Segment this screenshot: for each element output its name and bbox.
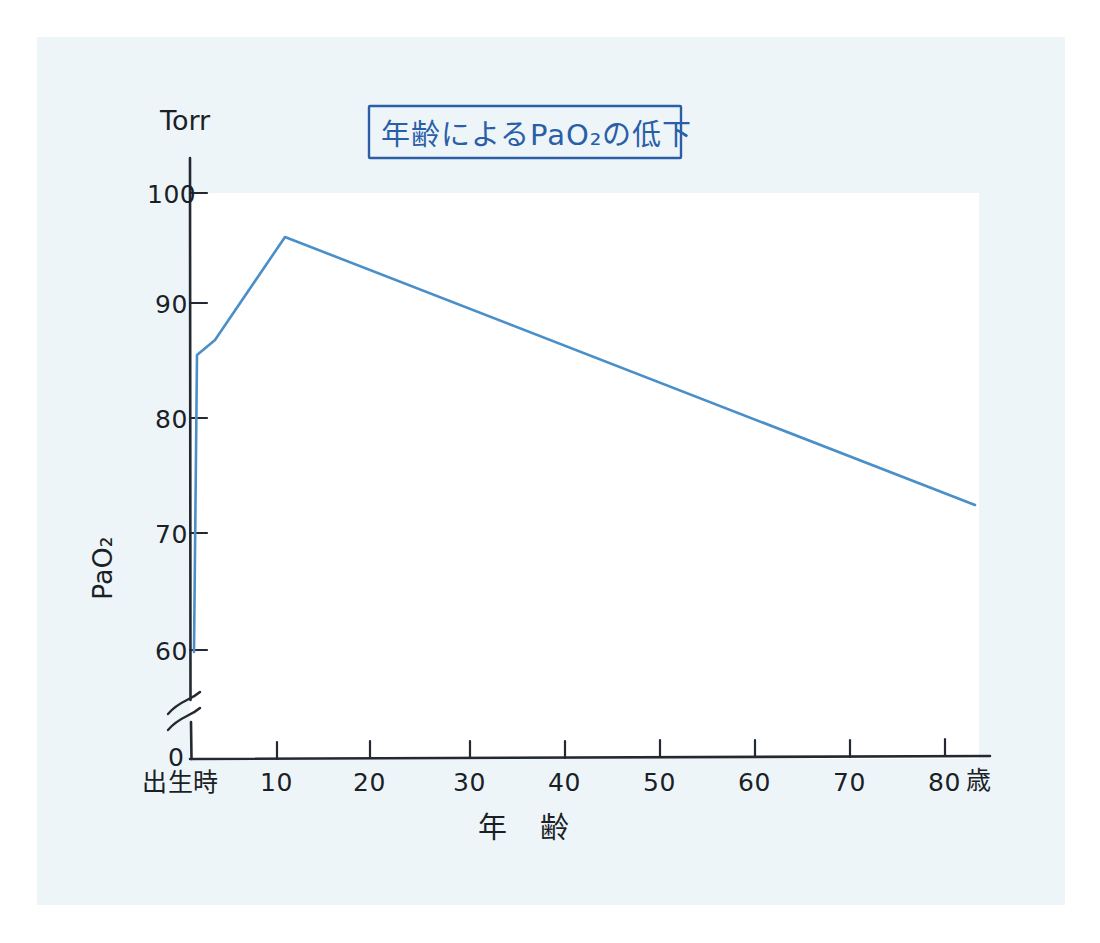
y-axis-ticks bbox=[190, 193, 207, 650]
y-axis-break-symbol bbox=[168, 692, 200, 730]
x-tick-label-60: 60 bbox=[738, 768, 771, 797]
y-tick-label-70: 70 bbox=[155, 520, 188, 549]
pao2-data-line bbox=[194, 237, 975, 652]
y-axis-line-upper bbox=[190, 158, 191, 700]
page-root: 年齢によるPaO₂の低下 Torr 100 90 80 70 bbox=[0, 0, 1100, 943]
x-axis-tick-labels: 出生時 10 20 30 40 50 60 70 80 歳 bbox=[142, 766, 992, 797]
y-tick-label-90: 90 bbox=[155, 290, 188, 319]
x-axis-line bbox=[190, 756, 990, 759]
x-tick-label-10: 10 bbox=[260, 768, 293, 797]
x-tick-label-birth: 出生時 bbox=[142, 768, 219, 797]
x-tick-label-30: 30 bbox=[453, 768, 486, 797]
x-tick-label-50: 50 bbox=[643, 768, 676, 797]
y-tick-label-80: 80 bbox=[155, 405, 188, 434]
y-axis-title: PaO₂ bbox=[87, 536, 118, 600]
chart-figure: 年齢によるPaO₂の低下 Torr 100 90 80 70 bbox=[0, 0, 1100, 943]
chart-title: 年齢によるPaO₂の低下 bbox=[381, 118, 692, 152]
y-tick-label-100: 100 bbox=[147, 180, 196, 209]
x-tick-label-20: 20 bbox=[353, 768, 386, 797]
y-axis-unit-label: Torr bbox=[159, 105, 211, 136]
x-tick-label-40: 40 bbox=[548, 768, 581, 797]
x-tick-label-80: 80 bbox=[928, 768, 961, 797]
y-axis-line-lower bbox=[191, 722, 192, 759]
chart-title-group: 年齢によるPaO₂の低下 bbox=[369, 106, 692, 158]
x-axis-unit-label: 歳 bbox=[966, 766, 992, 795]
x-axis-title: 年 齢 bbox=[478, 811, 571, 845]
y-tick-label-60: 60 bbox=[155, 637, 188, 666]
x-tick-label-70: 70 bbox=[833, 768, 866, 797]
